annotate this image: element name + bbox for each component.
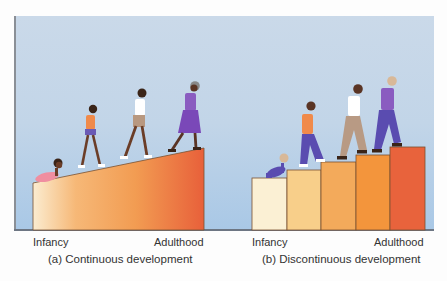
step-4 [356,155,390,230]
older-man-figure-b [372,76,402,152]
boy-figure-a [120,89,152,160]
step-3 [321,162,356,230]
step-2 [287,170,321,230]
older-woman-figure-a [168,81,201,152]
crawling-baby-figure-b [265,154,288,180]
boy-figure-b [299,101,325,167]
girl-figure-a [78,105,105,168]
step-1 [252,178,287,230]
step-5 [390,147,425,230]
man-figure-b [337,84,367,159]
panel-b-start-label: Infancy [252,236,287,248]
panel-b-end-label: Adulthood [374,236,424,248]
panel-a-caption: (a) Continuous development [48,253,192,265]
panel-a-end-label: Adulthood [154,236,204,248]
panel-a-start-label: Infancy [33,236,68,248]
panel-b-caption: (b) Discontinuous development [262,253,421,265]
